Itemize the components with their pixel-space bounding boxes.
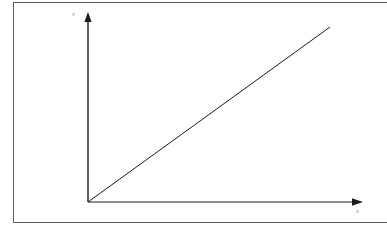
line-chart-plot bbox=[0, 0, 387, 230]
y-axis-label: v bbox=[72, 11, 75, 18]
x-axis-label: x bbox=[356, 208, 359, 215]
x-axis-arrowhead-icon bbox=[352, 198, 363, 205]
data-series-line bbox=[88, 27, 330, 202]
figure-page: v x bbox=[0, 0, 387, 230]
y-axis-arrowhead-icon bbox=[84, 12, 91, 22]
